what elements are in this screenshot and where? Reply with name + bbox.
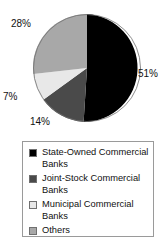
pie-graphic — [33, 14, 141, 122]
legend-swatch-state-owned-icon — [29, 149, 37, 157]
pie-slice-state-owned[interactable] — [84, 14, 138, 122]
data-label-others: 28% — [11, 18, 31, 29]
legend-label-joint-stock: Joint-Stock Commercial Banks — [42, 173, 149, 196]
legend-item-municipal[interactable]: Municipal Commercial Banks — [29, 199, 149, 222]
legend-swatch-joint-stock-icon — [29, 175, 37, 183]
legend-item-others[interactable]: Others — [29, 225, 149, 237]
pie-chart-figure: 28% 51% 7% 14% State-Owned Commercial Ba… — [0, 0, 168, 249]
data-label-state-owned: 51% — [138, 68, 158, 79]
legend-swatch-others-icon — [29, 227, 37, 235]
data-label-joint-stock: 14% — [30, 116, 50, 127]
pie-slice-others[interactable] — [33, 14, 87, 74]
legend-item-joint-stock[interactable]: Joint-Stock Commercial Banks — [29, 173, 149, 196]
chart-legend: State-Owned Commercial Banks Joint-Stock… — [22, 141, 154, 237]
pie-plot-area: 28% 51% 7% 14% — [0, 0, 168, 136]
legend-label-municipal: Municipal Commercial Banks — [42, 199, 149, 222]
legend-item-state-owned[interactable]: State-Owned Commercial Banks — [29, 147, 149, 170]
legend-label-others: Others — [42, 225, 70, 237]
legend-swatch-municipal-icon — [29, 201, 37, 209]
data-label-municipal: 7% — [3, 91, 17, 102]
legend-label-state-owned: State-Owned Commercial Banks — [42, 147, 149, 170]
